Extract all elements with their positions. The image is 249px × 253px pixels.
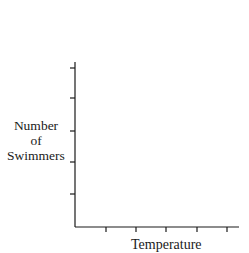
x-axis-label: Temperature (131, 237, 202, 253)
y-axis-label-line-1: Number (2, 118, 70, 133)
y-axis-label-line-3: Swimmers (2, 148, 70, 163)
y-axis-label: Number of Swimmers (2, 118, 70, 163)
y-axis-label-line-2: of (2, 133, 70, 148)
